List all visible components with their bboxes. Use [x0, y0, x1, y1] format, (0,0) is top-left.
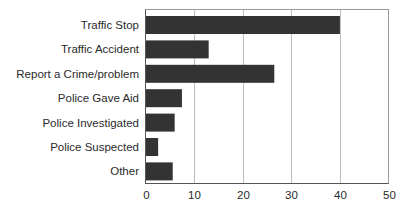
bar-traffic-stop: [146, 16, 340, 34]
category-label: Traffic Stop: [81, 19, 139, 31]
bar-police-investigated: [146, 114, 175, 132]
x-tick-label: 0: [143, 189, 149, 201]
category-label: Police Gave Aid: [58, 92, 139, 104]
x-tick-label: 20: [237, 189, 250, 201]
category-labels: Traffic StopTraffic AccidentReport a Cri…: [16, 19, 140, 177]
category-label: Police Investigated: [42, 117, 139, 129]
x-tick-label: 40: [334, 189, 347, 201]
bar-chart: Traffic StopTraffic AccidentReport a Cri…: [0, 0, 411, 211]
grid-lines: [195, 10, 341, 184]
category-label: Police Suspected: [50, 141, 139, 153]
bar-police-suspected: [146, 138, 159, 156]
x-tick-label: 30: [285, 189, 298, 201]
x-tick-label: 10: [188, 189, 201, 201]
category-label: Report a Crime/problem: [16, 68, 139, 80]
x-tick-label: 50: [383, 189, 396, 201]
category-label: Traffic Accident: [61, 43, 140, 55]
bar-other: [146, 162, 173, 180]
bar-police-gave-aid: [146, 89, 182, 107]
bars: [146, 16, 340, 180]
category-label: Other: [110, 165, 139, 177]
bar-report-a-crime-problem: [146, 65, 275, 83]
x-tick-labels: 01020304050: [143, 189, 396, 201]
bar-traffic-accident: [146, 40, 209, 58]
